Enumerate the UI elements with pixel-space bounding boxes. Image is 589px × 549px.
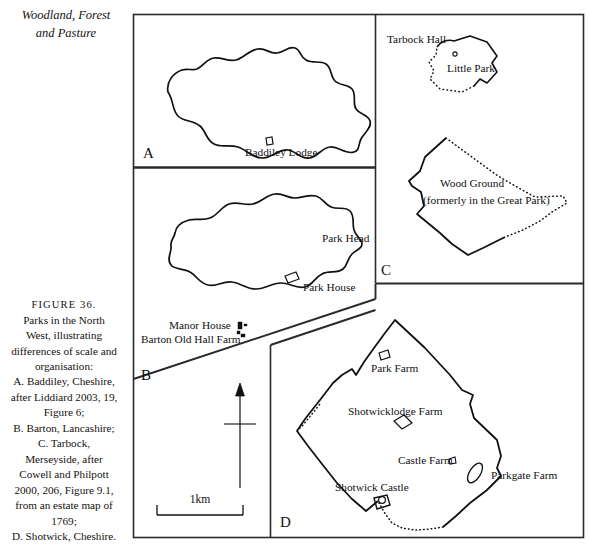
panel-b-map: B Park Head Park House Manor House Barto… bbox=[141, 194, 370, 383]
tarbock-hall-point-symbol bbox=[453, 52, 457, 56]
label-park-head: Park Head bbox=[322, 232, 370, 244]
label-wood-ground-sub: (formerly in the Great Park) bbox=[423, 194, 550, 207]
panel-a-letter: A bbox=[143, 145, 154, 161]
park-house-building-symbol bbox=[285, 272, 299, 283]
park-farm-building-symbol bbox=[379, 350, 390, 360]
label-shotwicklodge-farm: Shotwicklodge Farm bbox=[348, 405, 443, 417]
label-little-park: Little Park bbox=[447, 62, 495, 74]
panel-d-letter: D bbox=[280, 514, 291, 530]
label-park-house: Park House bbox=[303, 281, 355, 293]
label-manor-house: Manor House bbox=[169, 319, 231, 331]
label-castle-farm: Castle Farm bbox=[398, 454, 453, 466]
figure-page: Woodland, Forest and Pasture FIGURE 36. … bbox=[0, 0, 589, 549]
label-tarbock-hall: Tarbock Hall bbox=[387, 33, 446, 45]
panel-frame bbox=[134, 15, 584, 538]
label-baddiley-lodge: Baddiley Lodge bbox=[245, 146, 317, 158]
map-figure: A Baddiley Lodge B Park Head Park House … bbox=[0, 0, 589, 549]
label-wood-ground: Wood Ground bbox=[440, 177, 504, 189]
scale-bar-label: 1km bbox=[190, 493, 211, 506]
scale-bar bbox=[157, 505, 243, 515]
panel-c-letter: C bbox=[381, 262, 391, 278]
baddiley-lodge-building-symbol bbox=[266, 137, 273, 145]
label-parkgate-farm: Parkgate Farm bbox=[491, 469, 557, 481]
label-shotwick-castle: Shotwick Castle bbox=[335, 481, 409, 493]
shotwicklodge-farm-building-symbol bbox=[394, 415, 412, 429]
shotwick-park-boundary-solid bbox=[297, 320, 501, 527]
panel-d-map: Park Farm Shotwicklodge Farm Castle Farm… bbox=[280, 320, 557, 530]
parkgate-farm-symbol bbox=[465, 461, 486, 485]
shotwick-park-boundary-solid-west bbox=[297, 431, 378, 511]
map-furniture: 1km bbox=[157, 383, 256, 515]
baddiley-park-boundary bbox=[168, 48, 371, 158]
panel-a-map: A Baddiley Lodge bbox=[143, 48, 370, 161]
label-park-farm: Park Farm bbox=[371, 362, 419, 374]
panel-b-letter: B bbox=[141, 367, 151, 383]
panel-c-map: Tarbock Hall Little Park Wood Ground (fo… bbox=[381, 33, 567, 278]
label-barton-old-hall-farm: Barton Old Hall Farm bbox=[141, 333, 241, 345]
north-arrow bbox=[224, 383, 256, 488]
